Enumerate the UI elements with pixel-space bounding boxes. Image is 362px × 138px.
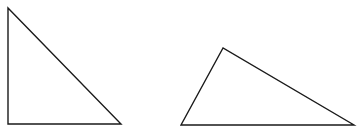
right-triangle <box>8 8 121 124</box>
diagram-canvas <box>0 0 362 138</box>
obtuse-scalene-triangle <box>181 48 354 125</box>
